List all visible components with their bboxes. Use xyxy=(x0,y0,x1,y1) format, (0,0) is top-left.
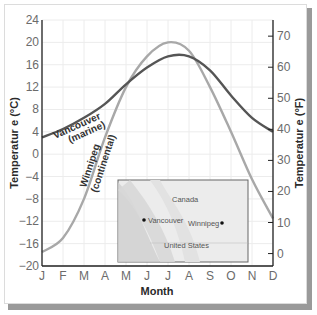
y-right-tick-label: 40 xyxy=(277,122,291,136)
y-right-tick-label: 0 xyxy=(277,247,284,261)
winnipeg-marker xyxy=(220,221,224,225)
x-tick-label: M xyxy=(121,269,131,283)
y-right-tick-label: 60 xyxy=(277,60,291,74)
y-right-tick-label: 10 xyxy=(277,216,291,230)
left-tick-labels: 24201612840−4−8−12−16−20 xyxy=(19,13,40,273)
y-tick-label: −8 xyxy=(25,192,39,206)
climate-chart: Canada Vancouver Winnipeg United States … xyxy=(0,0,317,315)
right-tick-labels: 706050403020100 xyxy=(268,29,291,260)
x-tick-label: A xyxy=(185,269,193,283)
y-tick-label: 4 xyxy=(32,125,39,139)
x-tick-label: D xyxy=(269,269,278,283)
y-tick-label: 24 xyxy=(26,13,40,27)
y-tick-label: 8 xyxy=(32,102,39,116)
y-tick-label: −20 xyxy=(19,259,40,273)
y-right-tick-label: 70 xyxy=(277,29,291,43)
x-tick-label: S xyxy=(206,269,214,283)
x-tick-label: J xyxy=(165,269,171,283)
y-axis-label-left: Temperatur e (°C) xyxy=(8,97,20,189)
vancouver-marker xyxy=(142,218,146,222)
x-tick-label: M xyxy=(79,269,89,283)
y-tick-label: −16 xyxy=(19,237,40,251)
x-tick-label: J xyxy=(39,269,45,283)
map-label-united-states: United States xyxy=(164,241,209,250)
y-right-tick-label: 50 xyxy=(277,91,291,105)
map-label-winnipeg: Winnipeg xyxy=(188,219,219,228)
y-tick-label: −4 xyxy=(25,170,39,184)
x-axis-label: Month xyxy=(141,285,174,297)
x-tick-label: N xyxy=(248,269,257,283)
map-label-vancouver: Vancouver xyxy=(148,216,184,225)
month-tick-labels: JFMAMJJASOND xyxy=(39,269,278,283)
y-tick-label: 20 xyxy=(26,35,40,49)
map-label-canada: Canada xyxy=(172,195,199,204)
y-tick-label: −12 xyxy=(19,214,40,228)
y-right-tick-label: 30 xyxy=(277,153,291,167)
y-tick-label: 16 xyxy=(26,58,40,72)
x-tick-label: J xyxy=(144,269,150,283)
x-tick-label: O xyxy=(226,269,235,283)
y-axis-label-right: Temperatur e (°F) xyxy=(293,97,305,188)
y-tick-label: 0 xyxy=(32,147,39,161)
x-tick-label: A xyxy=(101,269,109,283)
y-tick-label: 12 xyxy=(26,80,40,94)
y-right-tick-label: 20 xyxy=(277,184,291,198)
x-tick-label: F xyxy=(59,269,66,283)
inset-map: Canada Vancouver Winnipeg United States xyxy=(118,180,248,262)
